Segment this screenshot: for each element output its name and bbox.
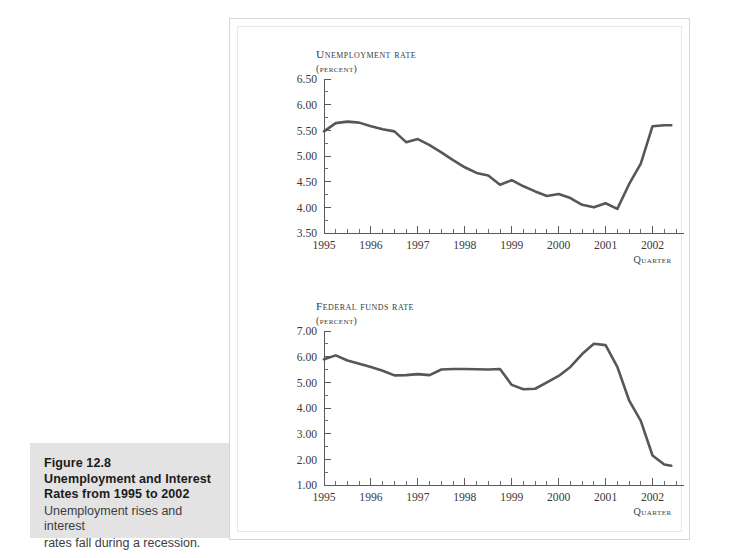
y-tick-label-federal-funds: 2.00 <box>297 454 317 467</box>
axis-unit-federal-funds: (percent) <box>316 315 357 327</box>
y-tick-label-federal-funds: 5.00 <box>297 377 317 390</box>
x-tick-label-unemployment: 2001 <box>594 239 617 252</box>
x-tick-label-unemployment: 1998 <box>453 239 476 252</box>
x-tick-label-federal-funds: 1997 <box>406 491 429 504</box>
chart-svg-federal-funds: Federal funds rate(percent)7.006.005.004… <box>238 289 685 539</box>
data-line-unemployment <box>324 122 671 209</box>
x-tick-label-unemployment: 1999 <box>500 239 523 252</box>
caption-body-line-2: rates fall during a recession. <box>44 536 222 552</box>
figure-panel: Unemployment rate(percent)6.506.005.505.… <box>229 18 690 540</box>
y-tick-label-unemployment: 4.00 <box>297 202 317 215</box>
x-tick-label-unemployment: 2000 <box>547 239 570 252</box>
x-tick-label-unemployment: 1997 <box>406 239 429 252</box>
figure-caption: Figure 12.8 Unemployment and Interest Ra… <box>30 443 236 538</box>
x-tick-label-unemployment: 1996 <box>359 239 382 252</box>
axis-unit-unemployment: (percent) <box>316 63 357 75</box>
chart-federal-funds-rate: Federal funds rate(percent)7.006.005.004… <box>238 289 681 539</box>
x-tick-label-federal-funds: 1996 <box>359 491 382 504</box>
x-axis-name-unemployment: Quarter <box>633 254 671 265</box>
x-tick-label-federal-funds: 2000 <box>547 491 570 504</box>
x-tick-label-unemployment: 2002 <box>641 239 664 252</box>
y-tick-label-unemployment: 6.00 <box>297 99 317 112</box>
y-tick-label-unemployment: 5.50 <box>297 125 317 138</box>
y-tick-label-federal-funds: 6.00 <box>297 351 317 364</box>
x-tick-label-federal-funds: 1995 <box>312 491 335 504</box>
chart-unemployment-rate: Unemployment rate(percent)6.506.005.505.… <box>238 37 681 287</box>
axis-title-federal-funds: Federal funds rate <box>316 300 414 312</box>
figure-panel-inner: Unemployment rate(percent)6.506.005.505.… <box>237 26 682 532</box>
x-tick-label-federal-funds: 2001 <box>594 491 617 504</box>
caption-title-line-1: Unemployment and Interest <box>44 472 222 488</box>
x-tick-label-unemployment: 1995 <box>312 239 335 252</box>
x-tick-label-federal-funds: 2002 <box>641 491 664 504</box>
x-tick-label-federal-funds: 1999 <box>500 491 523 504</box>
axis-title-unemployment: Unemployment rate <box>316 48 416 60</box>
caption-figure-number: Figure 12.8 <box>44 456 222 472</box>
y-tick-label-unemployment: 4.50 <box>297 176 317 189</box>
axis-lines-federal-funds <box>324 331 684 485</box>
y-tick-label-unemployment: 6.50 <box>297 73 317 86</box>
caption-body-line-1: Unemployment rises and interest <box>44 504 222 535</box>
x-tick-label-federal-funds: 1998 <box>453 491 476 504</box>
chart-svg-unemployment: Unemployment rate(percent)6.506.005.505.… <box>238 37 685 287</box>
y-tick-label-unemployment: 5.00 <box>297 150 317 163</box>
y-tick-label-federal-funds: 3.00 <box>297 428 317 441</box>
data-line-federal-funds <box>324 344 671 466</box>
axis-lines-unemployment <box>324 79 684 233</box>
y-tick-label-federal-funds: 4.00 <box>297 402 317 415</box>
y-tick-label-federal-funds: 7.00 <box>297 325 317 338</box>
caption-title-line-2: Rates from 1995 to 2002 <box>44 487 222 503</box>
x-axis-name-federal-funds: Quarter <box>633 506 671 517</box>
